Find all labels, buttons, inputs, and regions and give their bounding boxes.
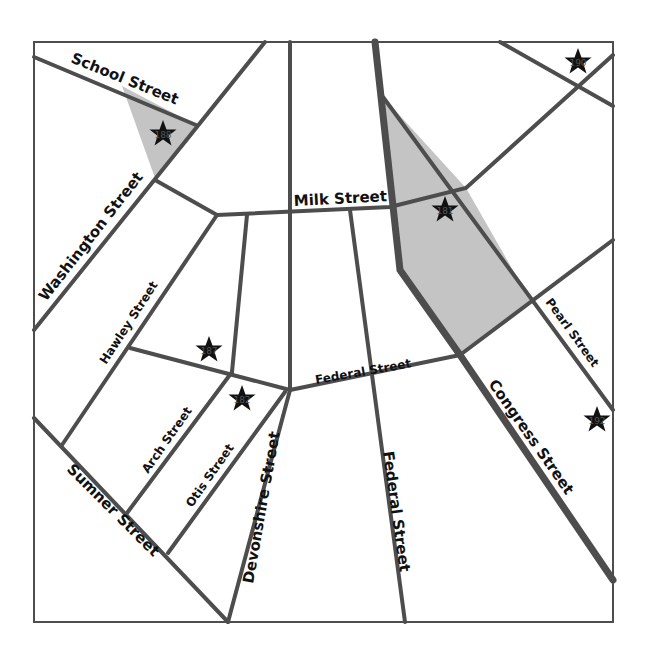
marker-label: 192 (588, 416, 605, 426)
label-otis-street: Otis Street (183, 441, 237, 510)
label-pearl-street: Pearl Street (543, 296, 602, 370)
marker-label: 190 (569, 58, 586, 68)
marker-label: 187 (200, 346, 217, 356)
marker-label: 182 (233, 395, 250, 405)
highlight-block-congress (383, 97, 530, 355)
label-federal-street-v: Federal Street (379, 450, 414, 573)
road-short (232, 215, 247, 372)
marker-190[interactable]: 190 (565, 48, 592, 74)
label-washington-street: Washington Street (35, 168, 147, 304)
label-devonshire-street: Devonshire Street (239, 430, 283, 585)
marker-label: 181 (436, 206, 453, 216)
marker-label: 188 (154, 130, 171, 140)
road-arch (127, 372, 232, 513)
road-connector (155, 180, 217, 215)
label-federal-street-h: Federal Street (314, 356, 412, 387)
street-map: School Street Washington Street Milk Str… (0, 0, 647, 657)
road-top-right (500, 42, 613, 106)
marker-192[interactable]: 192 (584, 406, 611, 432)
label-congress-street: Congress Street (485, 376, 578, 498)
label-arch-street: Arch Street (139, 404, 195, 476)
marker-187[interactable]: 187 (196, 336, 223, 362)
marker-182[interactable]: 182 (229, 385, 256, 411)
